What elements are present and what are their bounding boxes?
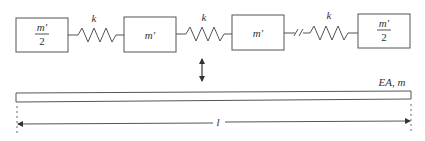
mass-4: m′ 2 — [358, 14, 410, 48]
dimension-arrow-left — [18, 123, 213, 124]
mass-3: m′ — [232, 15, 284, 50]
mass-2-label: m′ — [145, 29, 156, 41]
spring-1-label: k — [92, 12, 98, 24]
dimension-label: l — [216, 116, 219, 128]
mass-4-numerator: m′ — [379, 17, 390, 29]
spring-2: k — [176, 11, 232, 41]
spring-3-coil — [303, 26, 358, 40]
mass-1-numerator: m′ — [37, 21, 48, 33]
spring-3: k — [284, 9, 358, 40]
mass-3-label: m′ — [253, 27, 264, 39]
mass-4-denominator: 2 — [381, 31, 387, 43]
spring-1-coil — [68, 28, 124, 42]
length-dimension: l — [17, 104, 411, 134]
spring-2-coil — [176, 27, 232, 41]
spring-2-label: k — [202, 11, 208, 23]
break-mark-2 — [299, 29, 303, 36]
diagram-canvas: m′ 2 k m′ k m′ k m′ 2 EA, m — [0, 0, 425, 141]
spring-3-label: k — [327, 9, 333, 21]
mass-1: m′ 2 — [16, 18, 68, 52]
mass-2: m′ — [124, 17, 176, 52]
bar-body — [16, 91, 411, 102]
spring-1: k — [68, 12, 124, 42]
bar-label: EA, m — [378, 76, 406, 88]
mass-1-denominator: 2 — [39, 35, 45, 47]
dimension-arrow-right — [225, 121, 410, 122]
elastic-bar: EA, m — [16, 76, 411, 102]
